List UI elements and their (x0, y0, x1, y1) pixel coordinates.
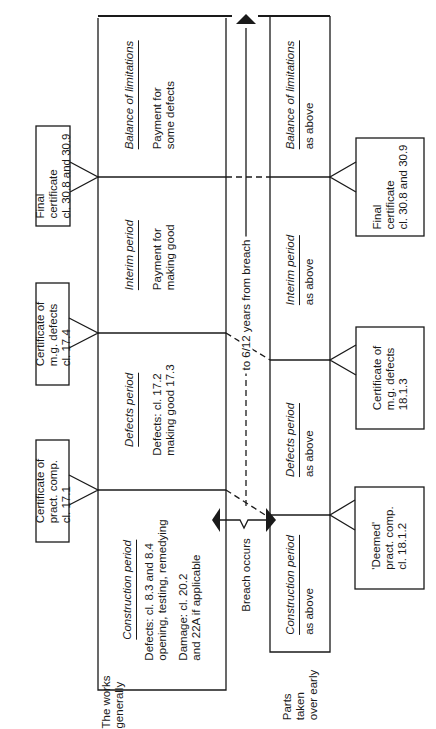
breach-occurs-label: Breach occurs (240, 538, 253, 612)
works-balance-of-limitations: Balance of limitations Payment for some … (123, 41, 177, 150)
period-title: Balance of limitations (123, 41, 139, 150)
certificate-text: m.g. defects (47, 302, 60, 367)
works-defects-period: Defects period Defects: cl. 17.2 making … (123, 364, 177, 455)
certificate-mg-defects-works: Certificate of m.g. defects cl. 17.4 (34, 302, 73, 367)
period-text: as above (303, 235, 316, 305)
certificate-text: 18.1.3 (397, 346, 410, 411)
annotation-text: Breach occurs (240, 538, 252, 612)
certificate-text: Final (34, 133, 47, 218)
certificate-final-works: Final certificate cl. 30.8 and 30.9 (34, 133, 73, 218)
works-interim-period: Interim period Payment for making good (123, 220, 177, 290)
row-label-works: The works generally (100, 675, 126, 728)
certificate-deemed-pract-comp-parts: 'Deemed' pract. comp. cl. 18.1.2 (370, 506, 409, 569)
period-text: some defects (164, 41, 177, 150)
parts-defects-period: Defects period as above (284, 403, 316, 477)
certificate-text: cl. 30.8 and 30.9 (60, 133, 73, 218)
period-title: Interim period (284, 235, 300, 305)
period-text: Damage: cl. 20.2 (177, 519, 190, 660)
period-text: Payment for (151, 220, 164, 290)
certificate-text: 'Deemed' (370, 506, 383, 569)
certificate-text: m.g. defects (384, 346, 397, 411)
period-title: Balance of limitations (284, 41, 300, 150)
period-text: Payment for (151, 41, 164, 150)
period-text: opening, testing, remedying (156, 519, 169, 660)
certificate-text: Certificate of (34, 302, 47, 367)
row-label-text: generally (113, 675, 126, 728)
period-title: Interim period (123, 220, 139, 290)
row-label-parts: Parts taken over early (281, 670, 320, 721)
row-label-text: The works (100, 675, 113, 728)
period-text: as above (303, 41, 316, 150)
certificate-text: cl. 18.1.2 (396, 506, 409, 569)
period-text: Defects: cl. 8.3 and 8.4 (143, 519, 156, 660)
period-text: as above (303, 403, 316, 477)
period-title: Construction period (284, 535, 300, 635)
certificate-text: pract. comp. (383, 506, 396, 569)
certificate-text: pract. comp. (47, 459, 60, 524)
row-label-text: Parts (281, 670, 294, 721)
row-label-text: taken (294, 670, 307, 721)
works-construction-period: Construction period Defects: cl. 8.3 and… (121, 519, 203, 660)
period-title: Defects period (123, 373, 139, 447)
period-text: making good 17.3 (164, 364, 177, 455)
certificate-text: cl. 17.4 (60, 302, 73, 367)
certificate-text: Certificate of (34, 459, 47, 524)
period-text: Defects: cl. 17.2 (151, 364, 164, 455)
certificate-text: certificate (47, 133, 60, 218)
period-title: Construction period (121, 540, 137, 640)
row-label-text: over early (307, 670, 320, 721)
parts-balance-of-limitations: Balance of limitations as above (284, 41, 316, 150)
period-text: as above (303, 535, 316, 635)
certificate-text: Final (371, 144, 384, 229)
certificate-text: certificate (384, 144, 397, 229)
certificate-text: Certificate of (371, 346, 384, 411)
certificate-text: cl. 30.8 and 30.9 (397, 144, 410, 229)
certificate-mg-defects-parts: Certificate of m.g. defects 18.1.3 (371, 346, 410, 411)
parts-interim-period: Interim period as above (284, 235, 316, 305)
certificate-final-parts: Final certificate cl. 30.8 and 30.9 (371, 144, 410, 229)
certificate-pract-comp-works: Certificate of pract. comp. cl. 17.1 (34, 459, 73, 524)
period-title: Defects period (284, 403, 300, 477)
limitation-label: to 6/12 years from breach (240, 236, 253, 373)
parts-construction-period: Construction period as above (284, 535, 316, 635)
period-text: and 22A if applicable (190, 519, 203, 660)
certificate-text: cl. 17.1 (60, 459, 73, 524)
period-text: making good (164, 220, 177, 290)
annotation-text: to 6/12 years from breach (240, 239, 252, 370)
